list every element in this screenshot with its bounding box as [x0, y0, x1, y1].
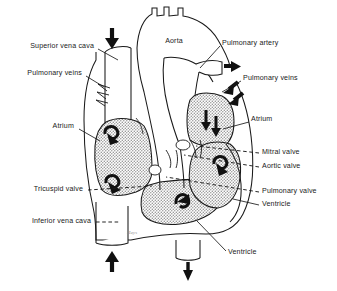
pulmonary-veins-left-vessels — [96, 84, 110, 106]
label-aorta: Aorta — [165, 38, 183, 45]
descending-outflow-vessel — [176, 240, 200, 260]
label-ventricle-left-heart: Ventricle — [262, 201, 291, 208]
label-pulmonary-valve: Pulmonary valve — [262, 188, 317, 195]
label-mitral-valve: Mitral valve — [262, 149, 300, 156]
right-atrium-chamber — [95, 118, 152, 196]
label-pulmonary-veins-right: Pulmonary veins — [243, 75, 298, 82]
label-superior-vena-cava: Superior vena cava — [30, 43, 94, 50]
heart-anatomy-diagram: Superior vena cava Pulmonary veins Atriu… — [0, 0, 337, 291]
flow-arrow-inflow-superior-vena-cava — [105, 28, 119, 49]
left-ventricle-chamber — [189, 142, 240, 208]
inferior-vena-cava-vessel — [96, 202, 128, 245]
label-atrium-right-heart: Atrium — [53, 123, 74, 130]
label-tricuspid-valve: Tricuspid valve — [34, 186, 83, 193]
flow-arrow-outflow-aorta-descending — [183, 262, 193, 281]
flow-arrow-inflow-inferior-vena-cava — [105, 251, 119, 272]
label-inferior-vena-cava: Inferior vena cava — [32, 218, 91, 225]
flow-arrow-inflow-pulmonary-vein-lower — [228, 93, 243, 106]
label-ventricle-right-heart: Ventricle — [228, 249, 257, 256]
label-pulmonary-veins-left: Pulmonary veins — [27, 70, 82, 77]
label-atrium-left-heart: Atrium — [251, 116, 272, 123]
label-aortic-valve: Aortic valve — [262, 163, 300, 170]
left-atrium-chamber — [187, 93, 234, 147]
artist-signature: Hays — [127, 230, 137, 235]
label-pulmonary-artery: Pulmonary artery — [222, 40, 278, 47]
